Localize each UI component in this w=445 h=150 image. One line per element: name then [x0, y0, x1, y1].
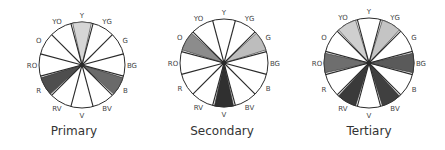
segment-label-bg: BG	[416, 60, 426, 68]
segment-label-rv: RV	[52, 105, 61, 113]
segment-label-ro: RO	[27, 62, 38, 70]
segment-label-bv: BV	[245, 104, 255, 112]
caption-tertiary: Tertiary	[295, 124, 443, 138]
segment-label-y: Y	[366, 8, 372, 16]
segment-label-y: Y	[79, 12, 85, 20]
wheel-center	[222, 61, 225, 64]
color-wheel-tertiary: YYGGBGBBVVRVRROOYO	[295, 0, 445, 124]
caption-secondary: Secondary	[148, 124, 296, 138]
color-wheel-secondary: YYGGBGBBVVRVRROOYO	[148, 0, 296, 124]
segment-label-yo: YO	[337, 14, 348, 22]
segment-label-yg: YG	[101, 18, 112, 26]
segment-label-g: G	[265, 34, 270, 42]
segment-label-r: R	[36, 87, 41, 95]
wheel-center	[80, 63, 83, 66]
segment-label-r: R	[177, 85, 182, 93]
segment-label-v: V	[367, 112, 372, 120]
segment-label-yg: YG	[244, 15, 255, 23]
segment-label-bv: BV	[102, 105, 112, 113]
wheel-center	[367, 61, 370, 64]
segment-label-b: B	[123, 87, 128, 95]
segment-label-o: O	[177, 34, 183, 42]
segment-label-b: B	[412, 86, 417, 94]
segment-label-ro: RO	[168, 60, 179, 68]
segment-label-yo: YO	[193, 15, 204, 23]
segment-label-yg: YG	[389, 14, 400, 22]
segment-label-g: G	[411, 34, 416, 42]
segment-label-r: R	[322, 86, 327, 94]
segment-label-o: O	[36, 37, 42, 45]
wheel-tertiary: YYGGBGBBVVRVRROOYO Tertiary	[295, 0, 443, 150]
wheel-primary: YYGGBGBBVVRVRROOYO Primary	[0, 0, 148, 150]
segment-label-ro: RO	[312, 60, 323, 68]
segment-label-v: V	[222, 111, 227, 119]
segment-label-o: O	[321, 34, 327, 42]
segment-label-bg: BG	[270, 60, 280, 68]
segment-label-b: B	[266, 85, 271, 93]
segment-label-yo: YO	[51, 18, 62, 26]
segment-label-v: V	[80, 112, 85, 120]
segment-label-y: Y	[221, 9, 227, 17]
segment-label-bg: BG	[127, 62, 137, 70]
segment-label-g: G	[123, 37, 128, 45]
caption-primary: Primary	[0, 124, 148, 138]
wheel-secondary: YYGGBGBBVVRVRROOYO Secondary	[148, 0, 296, 150]
segment-label-bv: BV	[390, 105, 400, 113]
color-wheel-primary: YYGGBGBBVVRVRROOYO	[0, 0, 148, 124]
segment-label-rv: RV	[194, 104, 203, 112]
segment-label-rv: RV	[338, 105, 347, 113]
